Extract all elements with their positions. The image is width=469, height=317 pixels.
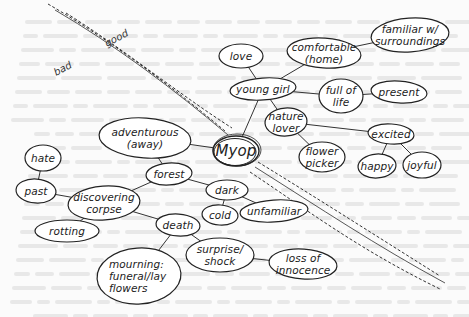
good-label: good bbox=[103, 27, 131, 49]
node-mourning[interactable]: mourning:funeral/layflowers bbox=[95, 245, 183, 307]
node-loss-of-innocence[interactable]: loss ofinnocence bbox=[268, 247, 338, 282]
node-familiar[interactable]: familiar w/surroundings bbox=[370, 15, 450, 54]
node-label: death bbox=[163, 219, 194, 231]
node-happy[interactable]: happy bbox=[357, 153, 397, 180]
node-present[interactable]: present bbox=[370, 79, 427, 105]
node-label: forest bbox=[153, 168, 185, 180]
node-label: present bbox=[378, 86, 421, 98]
node-unfamiliar[interactable]: unfamiliar bbox=[239, 198, 308, 225]
node-surprise-shock[interactable]: surprise/shock bbox=[186, 238, 254, 272]
node-label: rotting bbox=[49, 225, 85, 237]
mind-map: good bad young girllovecomfortable(home)… bbox=[0, 0, 469, 317]
node-full-of-life[interactable]: full oflife bbox=[319, 79, 363, 113]
node-label: cold bbox=[209, 209, 231, 221]
node-discovering-corpse[interactable]: discoveringcorpse bbox=[67, 184, 141, 223]
node-love[interactable]: love bbox=[219, 44, 263, 68]
node-label: familiar w/surroundings bbox=[375, 23, 445, 47]
node-label: happy bbox=[360, 160, 394, 172]
node-rotting[interactable]: rotting bbox=[35, 220, 99, 242]
node-label: unfamiliar bbox=[247, 205, 302, 217]
mind-map-canvas: good bad young girllovecomfortable(home)… bbox=[0, 0, 469, 317]
node-joyful[interactable]: joyful bbox=[403, 152, 441, 178]
node-hate[interactable]: hate bbox=[25, 145, 61, 171]
node-past[interactable]: past bbox=[15, 178, 57, 205]
center-node-myop[interactable]: Myop bbox=[213, 134, 261, 166]
node-label: hate bbox=[31, 152, 55, 164]
node-adventurous[interactable]: adventurous(away) bbox=[98, 115, 193, 161]
node-label: joyful bbox=[405, 159, 436, 171]
center-node-label: Myop bbox=[216, 142, 257, 160]
bad-label: bad bbox=[52, 59, 74, 78]
node-flower-picker[interactable]: flowerpicker bbox=[299, 142, 345, 172]
node-label: love bbox=[230, 50, 252, 62]
node-cold[interactable]: cold bbox=[201, 204, 238, 226]
node-label: flowerpicker bbox=[305, 145, 339, 169]
node-label: young girl bbox=[235, 83, 290, 95]
node-excited[interactable]: excited bbox=[367, 122, 414, 145]
node-label: dark bbox=[215, 184, 240, 196]
node-forest[interactable]: forest bbox=[145, 161, 192, 186]
node-nature-lover[interactable]: naturelover bbox=[264, 107, 308, 138]
node-death[interactable]: death bbox=[155, 212, 200, 237]
node-dark[interactable]: dark bbox=[206, 180, 248, 200]
node-comfortable[interactable]: comfortable(home) bbox=[286, 35, 362, 70]
node-label: excited bbox=[371, 128, 411, 140]
node-label: naturelover bbox=[268, 110, 303, 134]
node-label: past bbox=[23, 185, 48, 197]
node-young-girl[interactable]: young girl bbox=[229, 76, 296, 103]
